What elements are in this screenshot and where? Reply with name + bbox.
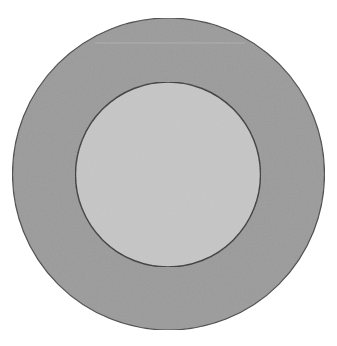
inner-circle	[76, 82, 261, 267]
concentric-circles-diagram	[0, 0, 337, 346]
diagram-canvas	[0, 0, 337, 346]
